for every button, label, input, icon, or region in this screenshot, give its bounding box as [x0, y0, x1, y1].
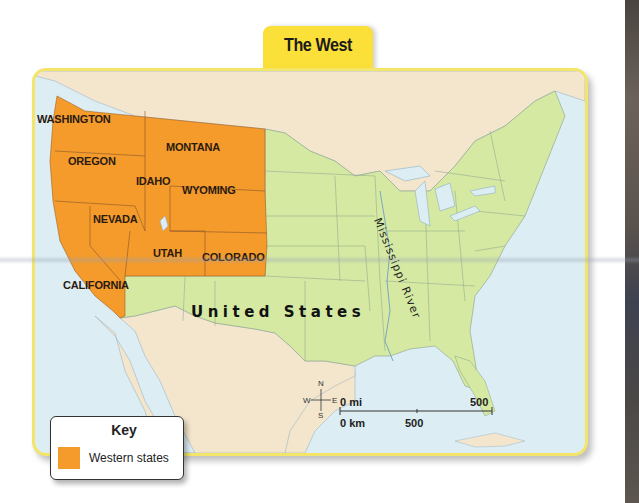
state-label-wyoming: WYOMING — [182, 184, 236, 196]
compass-west: W — [303, 396, 311, 405]
compass-east: E — [332, 396, 337, 405]
key-title: Key — [51, 422, 183, 438]
map-title-tab: The West — [263, 26, 373, 70]
scale-miles-end: 500 — [470, 396, 488, 408]
state-label-montana: MONTANA — [166, 141, 220, 153]
state-label-oregon: OREGON — [68, 155, 116, 167]
compass-south: S — [318, 411, 323, 420]
state-label-washington: WASHINGTON — [37, 113, 111, 125]
key-label-western-states: Western states — [89, 451, 169, 465]
key-swatch-western-states — [58, 447, 80, 469]
country-label: United States — [191, 303, 365, 321]
map-frame: WASHINGTON OREGON CALIFORNIA IDAHO NEVAD… — [32, 68, 588, 456]
state-label-nevada: NEVADA — [93, 213, 137, 225]
state-label-idaho: IDAHO — [136, 175, 170, 187]
compass-north: N — [318, 379, 324, 388]
scale-miles-start: 0 mi — [340, 396, 362, 408]
state-label-california: CALIFORNIA — [63, 279, 129, 291]
scale-km-mid: 500 — [405, 417, 423, 429]
state-label-colorado: COLORADO — [202, 251, 265, 263]
adjacent-photo-edge — [625, 0, 639, 503]
map-key: Key Western states — [50, 416, 184, 480]
scale-km-start: 0 km — [340, 417, 365, 429]
state-label-utah: UTAH — [153, 247, 182, 259]
map-title: The West — [271, 34, 365, 56]
